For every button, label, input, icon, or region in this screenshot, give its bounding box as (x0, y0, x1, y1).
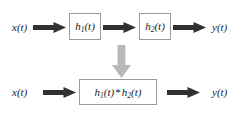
block-h1-base: h (75, 20, 81, 32)
conv-left-sub: 1 (100, 91, 104, 100)
block-h1-conv-h2[interactable]: h1(t)*h2(t) (79, 79, 157, 105)
block-h1-label: h1(t) (75, 21, 95, 32)
block-diagram-canvas: x(t) h1(t) h2(t) y(t) x( (0, 0, 243, 114)
arrow-conv-to-output (167, 87, 200, 98)
equivalent-output-label: y(t) (212, 87, 227, 98)
cascade-input-label: x(t) (12, 22, 27, 33)
block-h2-label: h2(t) (145, 21, 165, 32)
block-h1-sub: 1 (81, 25, 85, 34)
cascade-output-label: y(t) (212, 22, 227, 33)
equivalent-input-label: x(t) (12, 87, 27, 98)
arrow-input-to-h1 (33, 22, 66, 33)
conv-right-sub: 2 (127, 91, 131, 100)
block-h1-arg: (t) (84, 20, 94, 32)
block-h1-conv-h2-label: h1(t)*h2(t) (95, 87, 142, 98)
block-h2-arg: (t) (154, 20, 164, 32)
arrow-input-to-conv (43, 87, 76, 98)
arrow-h1-to-h2 (103, 22, 136, 33)
block-h1[interactable]: h1(t) (69, 13, 101, 40)
block-h2[interactable]: h2(t) (139, 13, 171, 40)
block-h2-sub: 2 (151, 25, 155, 34)
conv-left-arg: (t) (104, 86, 114, 98)
block-h2-base: h (145, 20, 151, 32)
arrow-h2-to-output (173, 22, 206, 33)
conv-right-arg: (t) (131, 86, 141, 98)
convolution-operator: * (114, 86, 122, 98)
equivalence-down-arrow (112, 45, 131, 78)
